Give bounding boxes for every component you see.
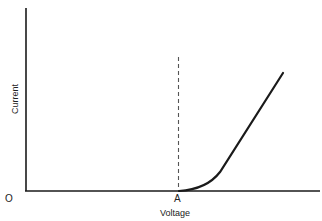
origin-label: O: [5, 193, 13, 204]
chart: O A Voltage Current: [0, 0, 322, 221]
plot-area: [0, 0, 322, 221]
iv-curve: [179, 73, 283, 191]
threshold-label-a: A: [174, 193, 181, 204]
y-axis-label: Current: [10, 81, 20, 117]
x-axis-label: Voltage: [160, 208, 190, 218]
